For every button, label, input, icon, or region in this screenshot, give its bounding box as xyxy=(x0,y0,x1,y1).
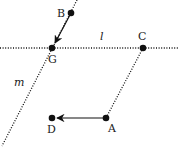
vectors-layer xyxy=(55,13,106,118)
point-label-g: G xyxy=(48,53,57,66)
translation-diagram: lmBGCDA xyxy=(0,0,179,148)
line-ca xyxy=(106,48,143,118)
labels-layer: lmBGCDA xyxy=(14,7,146,136)
point-d-dot xyxy=(49,115,56,122)
diagram-canvas: lmBGCDA xyxy=(0,0,179,148)
point-label-c: C xyxy=(138,30,146,43)
point-a-dot xyxy=(103,115,110,122)
point-label-d: D xyxy=(47,123,56,136)
point-g-dot xyxy=(49,45,56,52)
point-label-b: B xyxy=(57,7,65,20)
line-label-m: m xyxy=(14,76,24,89)
point-c-dot xyxy=(140,45,147,52)
point-label-a: A xyxy=(107,122,117,135)
point-b-dot xyxy=(68,10,75,17)
line-label-l: l xyxy=(100,30,104,43)
lines-layer xyxy=(0,0,179,146)
